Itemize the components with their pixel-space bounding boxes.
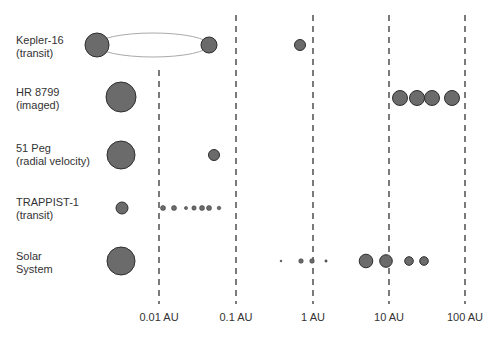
system-label-51-peg: 51 Peg (radial velocity) xyxy=(16,142,90,168)
system-name: Kepler-16 xyxy=(16,34,64,47)
orbit-paths xyxy=(97,33,209,57)
axis-label-0-01-au: 0.01 AU xyxy=(139,311,178,323)
planet-circle xyxy=(325,260,327,262)
star-circle xyxy=(107,247,135,275)
system-name: HR 8799 xyxy=(16,86,59,99)
planet-circle xyxy=(405,257,414,266)
planet-circle xyxy=(359,254,373,268)
axis-label-10-au: 10 AU xyxy=(374,311,404,323)
planet-circle xyxy=(393,91,408,106)
detection-method: (imaged) xyxy=(16,99,59,112)
planet-circle xyxy=(410,91,425,106)
planet-circle xyxy=(295,40,306,51)
exoplanet-system-diagram xyxy=(0,0,493,338)
detection-method: (transit) xyxy=(16,209,79,222)
planet-circle xyxy=(207,206,212,211)
star-circle xyxy=(116,202,128,214)
system-name: Solar xyxy=(16,250,53,263)
planet-circle xyxy=(217,206,221,210)
axis-label-1-au: 1 AU xyxy=(301,311,325,323)
axis-label-0-1-au: 0.1 AU xyxy=(219,311,252,323)
binary-orbit-ellipse xyxy=(97,33,209,57)
planet-circle xyxy=(299,259,304,264)
star-circle xyxy=(107,141,135,169)
detection-method: (transit) xyxy=(16,47,64,60)
system-name: TRAPPIST-1 xyxy=(16,196,79,209)
planet-circle xyxy=(184,206,187,209)
planet-circle xyxy=(280,260,282,262)
axis-label-100-au: 100 AU xyxy=(447,311,483,323)
planet-circle xyxy=(445,91,460,106)
planet-circle xyxy=(420,257,429,266)
planet-circle xyxy=(310,259,315,264)
system-label-kepler-16: Kepler-16 (transit) xyxy=(16,34,64,60)
planet-circle xyxy=(200,206,205,211)
celestial-bodies xyxy=(85,33,460,275)
planet-circle xyxy=(172,206,177,211)
star-circle xyxy=(85,33,109,57)
system-label-solar-system: Solar System xyxy=(16,250,53,276)
star-circle xyxy=(106,82,136,112)
star-circle xyxy=(201,37,217,53)
detection-method: System xyxy=(16,263,53,276)
planet-circle xyxy=(209,150,220,161)
planet-circle xyxy=(192,206,196,210)
system-label-trappist-1: TRAPPIST-1 (transit) xyxy=(16,196,79,222)
system-label-hr-8799: HR 8799 (imaged) xyxy=(16,86,59,112)
planet-circle xyxy=(161,206,166,211)
planet-circle xyxy=(425,91,440,106)
detection-method: (radial velocity) xyxy=(16,155,90,168)
system-name: 51 Peg xyxy=(16,142,90,155)
planet-circle xyxy=(380,255,393,268)
